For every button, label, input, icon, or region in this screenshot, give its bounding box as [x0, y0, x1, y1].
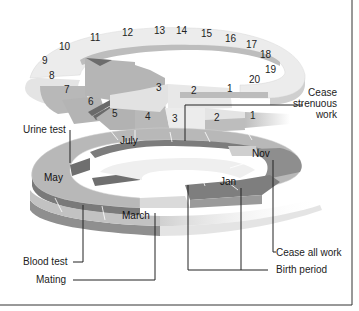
label-blood-test: Blood test — [23, 256, 68, 267]
week-16: 16 — [225, 33, 237, 44]
week-8: 8 — [49, 70, 55, 81]
month-jan: Jan — [220, 176, 236, 187]
month-may: May — [44, 172, 63, 183]
diagram-frame: 11 12 13 14 15 16 17 18 19 20 10 9 8 7 6… — [0, 0, 359, 311]
week-13: 13 — [154, 25, 166, 36]
lower-spiral — [30, 128, 322, 236]
month-july: July — [120, 135, 138, 146]
week-1-lower: 1 — [250, 110, 256, 121]
week-5: 5 — [112, 108, 118, 119]
week-6: 6 — [88, 96, 94, 107]
week-15: 15 — [201, 28, 213, 39]
week-20: 20 — [249, 74, 261, 85]
label-cease-strenuous-2: strenuous — [293, 98, 337, 109]
week-9: 9 — [42, 55, 48, 66]
week-7: 7 — [64, 84, 70, 95]
month-march: March — [122, 210, 150, 221]
week-17: 17 — [246, 39, 258, 50]
week-2-upper: 2 — [191, 85, 197, 96]
week-3-upper: 3 — [156, 82, 162, 93]
label-urine-test: Urine test — [23, 124, 66, 135]
week-19: 19 — [265, 64, 277, 75]
label-mating: Mating — [36, 274, 66, 285]
month-nov: Nov — [252, 148, 270, 159]
week-10: 10 — [59, 41, 71, 52]
week-18: 18 — [260, 49, 272, 60]
week-11: 11 — [90, 32, 101, 43]
week-1-upper: 1 — [227, 83, 233, 94]
week-3-lower: 3 — [172, 113, 178, 124]
week-14: 14 — [176, 25, 188, 36]
week-12: 12 — [122, 27, 134, 38]
label-cease-strenuous-3: work — [315, 109, 338, 120]
week-2-lower: 2 — [214, 112, 220, 123]
spiral-diagram: 11 12 13 14 15 16 17 18 19 20 10 9 8 7 6… — [0, 0, 359, 311]
week-4: 4 — [145, 111, 151, 122]
label-cease-all-work: Cease all work — [276, 247, 343, 258]
label-cease-strenuous-1: Cease — [308, 87, 337, 98]
label-birth-period: Birth period — [276, 264, 327, 275]
